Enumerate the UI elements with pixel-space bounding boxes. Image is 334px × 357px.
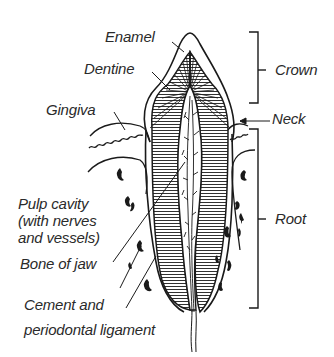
label-crown: Crown <box>275 62 317 78</box>
label-periodontal-ligament: periodontal ligament <box>24 322 155 338</box>
tooth-diagram: Enamel Dentine Gingiva Pulp cavity (with… <box>0 0 334 357</box>
root-bracket <box>249 129 266 308</box>
gingiva-left <box>88 123 150 194</box>
label-gingiva: Gingiva <box>46 102 95 118</box>
label-enamel: Enamel <box>105 29 155 45</box>
label-root: Root <box>275 211 306 227</box>
label-bone-of-jaw: Bone of jaw <box>20 256 96 272</box>
label-pulp-cavity-line2: (with nerves <box>18 213 96 229</box>
label-cement: Cement and <box>24 297 104 313</box>
label-neck: Neck <box>272 111 305 127</box>
label-pulp-cavity: Pulp cavity <box>18 196 88 212</box>
crown-bracket <box>249 32 266 103</box>
label-pulp-cavity-line3: and vessels) <box>18 230 100 246</box>
label-dentine: Dentine <box>84 61 134 77</box>
root-nerve-strands <box>191 310 196 352</box>
